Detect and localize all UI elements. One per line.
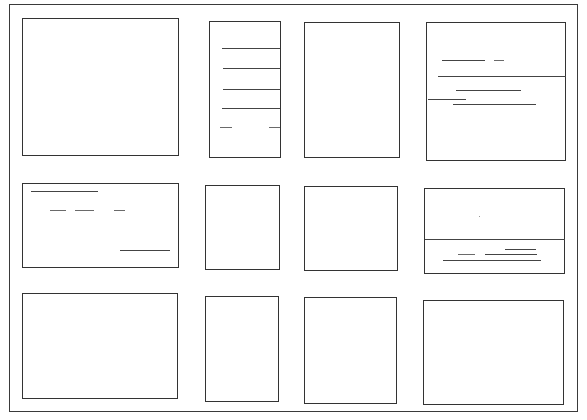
wireframe-panel-r2c3 (304, 186, 398, 271)
wireframe-panel-r1c4 (426, 22, 566, 161)
placeholder-text-line (31, 191, 98, 192)
wireframe-panel-r3c1 (22, 293, 178, 399)
placeholder-text-line (458, 254, 475, 255)
placeholder-text-line (438, 76, 566, 77)
placeholder-text-line (442, 60, 485, 61)
placeholder-text-line (222, 48, 280, 49)
wireframe-panel-r3c3 (304, 297, 397, 404)
wireframe-panel-r3c2 (205, 296, 279, 402)
placeholder-text-line (453, 104, 536, 105)
wireframe-panel-r1c1 (22, 18, 179, 156)
placeholder-text-line (114, 210, 125, 211)
placeholder-text-line (485, 254, 537, 255)
placeholder-text-line (75, 210, 94, 211)
placeholder-text-line (269, 127, 280, 128)
wireframe-panel-r3c4 (423, 300, 564, 405)
wireframe-panel-r2c1 (22, 183, 179, 268)
placeholder-text-line (505, 249, 536, 250)
placeholder-text-line (443, 260, 541, 261)
ink-speck (479, 216, 480, 217)
placeholder-text-line (494, 60, 504, 61)
placeholder-text-line (425, 239, 565, 240)
placeholder-text-line (222, 108, 280, 109)
placeholder-text-line (50, 210, 66, 211)
placeholder-text-line (428, 99, 466, 100)
wireframe-panel-r1c3 (304, 22, 400, 158)
wireframe-panel-r2c4 (424, 188, 565, 274)
placeholder-text-line (223, 89, 280, 90)
wireframe-panel-r2c2 (205, 185, 280, 270)
placeholder-text-line (220, 127, 232, 128)
placeholder-text-line (223, 68, 280, 69)
placeholder-text-line (120, 250, 170, 251)
placeholder-text-line (456, 90, 521, 91)
